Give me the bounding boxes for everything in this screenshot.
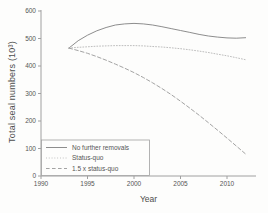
series-line-solid — [69, 23, 246, 48]
legend-label: 1.5 x status-quo — [72, 165, 119, 173]
x-tick-label: 2000 — [127, 180, 142, 187]
y-tick-label: 200 — [25, 117, 36, 124]
chart-canvas: 010020030040050060019901995200020052010N… — [0, 0, 268, 213]
y-tick-label: 600 — [25, 7, 36, 14]
y-tick-label: 100 — [25, 145, 36, 152]
x-tick-label: 1990 — [34, 180, 49, 187]
y-tick-label: 300 — [25, 90, 36, 97]
y-tick-label: 400 — [25, 62, 36, 69]
y-tick-label: 0 — [32, 172, 36, 179]
x-tick-label: 1995 — [80, 180, 95, 187]
legend-label: No further removals — [72, 144, 130, 151]
series-line-dashed — [69, 48, 246, 154]
x-tick-label: 2005 — [173, 180, 188, 187]
y-tick-label: 500 — [25, 35, 36, 42]
seal-numbers-line-chart: 010020030040050060019901995200020052010N… — [0, 0, 268, 213]
series-line-dotted — [69, 46, 246, 60]
legend-label: Status-quo — [72, 154, 104, 162]
x-tick-label: 2010 — [220, 180, 235, 187]
